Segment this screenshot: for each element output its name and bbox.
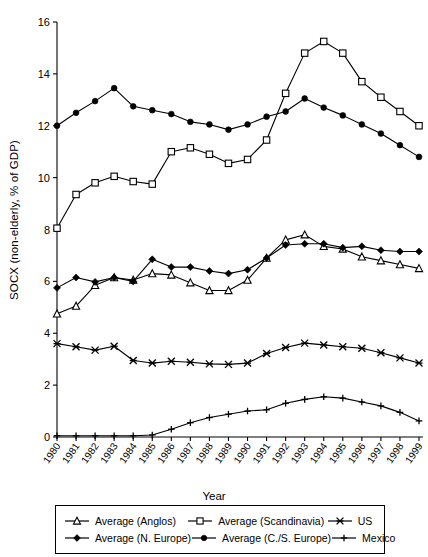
x-tick-label: 1994 bbox=[308, 440, 330, 465]
data-point bbox=[130, 178, 136, 184]
data-point bbox=[225, 160, 231, 166]
series-line bbox=[57, 244, 419, 288]
data-point bbox=[339, 343, 346, 350]
data-point bbox=[226, 127, 232, 133]
data-point bbox=[264, 114, 270, 120]
series-2 bbox=[54, 38, 422, 231]
x-tick-label: 1997 bbox=[365, 440, 387, 465]
legend-item: Average (C./S. Europe) bbox=[191, 532, 331, 544]
y-tick-label: 10 bbox=[38, 172, 50, 184]
data-point bbox=[149, 181, 155, 187]
y-tick-label: 8 bbox=[44, 224, 50, 236]
x-tick-label: 1990 bbox=[231, 440, 253, 465]
data-point bbox=[282, 400, 289, 407]
x-tick-label: 1980 bbox=[41, 440, 63, 465]
series-6 bbox=[54, 393, 423, 439]
data-point bbox=[416, 154, 422, 160]
data-point bbox=[340, 112, 346, 118]
data-point bbox=[149, 360, 156, 367]
data-point bbox=[54, 284, 61, 291]
data-point bbox=[168, 264, 175, 271]
data-point bbox=[301, 396, 308, 403]
data-point bbox=[301, 340, 308, 347]
line-chart-svg: 0246810121416198019811982198319841985198… bbox=[0, 0, 428, 470]
data-point bbox=[341, 534, 347, 540]
data-point bbox=[359, 122, 365, 128]
data-point bbox=[244, 408, 251, 415]
data-point bbox=[130, 103, 136, 109]
x-axis-title-text: Year bbox=[202, 490, 225, 502]
data-point bbox=[73, 274, 80, 281]
data-point bbox=[397, 409, 404, 416]
data-point bbox=[111, 85, 117, 91]
legend-item-label: Average (C./S. Europe) bbox=[222, 532, 331, 544]
data-point bbox=[359, 78, 365, 84]
x-tick-label: 1987 bbox=[174, 440, 196, 465]
data-point bbox=[168, 148, 174, 154]
data-point bbox=[358, 345, 365, 352]
x-tick-label: 1995 bbox=[327, 440, 349, 465]
legend-row: Average (N. Europe)Average (C./S. Europe… bbox=[64, 529, 376, 546]
x-tick-label: 1982 bbox=[79, 440, 101, 465]
data-point bbox=[397, 142, 403, 148]
data-point bbox=[301, 240, 308, 247]
data-point bbox=[320, 393, 327, 400]
data-point bbox=[73, 191, 79, 197]
data-point bbox=[111, 173, 117, 179]
data-point bbox=[168, 358, 175, 365]
data-point bbox=[416, 418, 423, 425]
circlefilled-marker-icon bbox=[191, 532, 217, 544]
y-tick-label: 14 bbox=[38, 68, 50, 80]
data-point bbox=[321, 105, 327, 111]
data-point bbox=[301, 50, 307, 56]
series-4 bbox=[54, 240, 423, 291]
data-point bbox=[244, 156, 250, 162]
plot-area: SOCX (non-elderly, % of GDP) 02468101214… bbox=[0, 0, 428, 470]
legend-row: Average (Anglos)Average (Scandinavia)US bbox=[64, 512, 376, 529]
series-line bbox=[57, 41, 419, 228]
x-tick-label: 1992 bbox=[269, 440, 291, 465]
data-point bbox=[339, 395, 346, 402]
legend-item: US bbox=[327, 515, 376, 527]
data-point bbox=[225, 411, 232, 418]
y-tick-label: 12 bbox=[38, 120, 50, 132]
data-point bbox=[187, 419, 194, 426]
data-point bbox=[92, 432, 99, 439]
data-point bbox=[377, 349, 384, 356]
triangleopen-marker-icon bbox=[64, 515, 90, 527]
data-point bbox=[197, 517, 203, 523]
x-axis-title: Year bbox=[0, 490, 428, 502]
chart-legend: Average (Anglos)Average (Scandinavia)US … bbox=[55, 505, 385, 554]
legend-item: Mexico bbox=[331, 532, 391, 544]
data-point bbox=[111, 432, 118, 439]
x-tick-label: 1988 bbox=[193, 440, 215, 465]
data-point bbox=[149, 107, 155, 113]
y-tick-label: 2 bbox=[44, 379, 50, 391]
data-point bbox=[206, 360, 213, 367]
legend-item-label: Average (Scandinavia) bbox=[218, 515, 324, 527]
series-1 bbox=[53, 231, 422, 317]
data-point bbox=[111, 343, 118, 350]
data-point bbox=[321, 38, 327, 44]
data-point bbox=[54, 225, 60, 231]
data-point bbox=[54, 123, 60, 129]
data-point bbox=[54, 432, 61, 439]
legend-item: Average (Scandinavia) bbox=[187, 515, 327, 527]
data-point bbox=[396, 248, 403, 255]
y-tick-label: 0 bbox=[44, 431, 50, 443]
x-tick-label: 1984 bbox=[117, 440, 139, 465]
data-point bbox=[282, 344, 289, 351]
data-point bbox=[92, 347, 99, 354]
data-point bbox=[74, 534, 81, 541]
data-point bbox=[187, 145, 193, 151]
data-point bbox=[263, 350, 270, 357]
data-point bbox=[320, 341, 327, 348]
series-5 bbox=[54, 85, 422, 160]
data-point bbox=[92, 180, 98, 186]
data-point bbox=[263, 137, 269, 143]
data-point bbox=[73, 432, 80, 439]
data-point bbox=[396, 354, 403, 361]
legend-item-label: Average (N. Europe) bbox=[95, 532, 191, 544]
data-point bbox=[416, 123, 422, 129]
data-point bbox=[416, 360, 423, 367]
